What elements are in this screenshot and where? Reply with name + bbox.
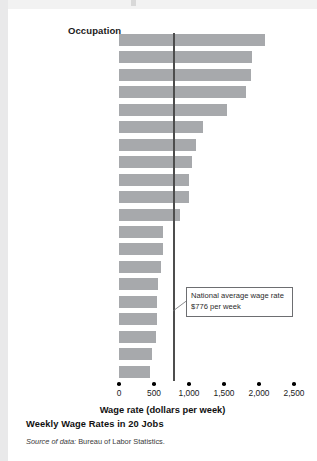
x-axis-tick-label: 2,500	[284, 388, 305, 398]
bar	[119, 69, 251, 81]
bar	[119, 313, 157, 325]
bar	[119, 226, 163, 238]
chart-figure: Occupation Chief executivesPhysicians an…	[8, 10, 317, 400]
bar	[119, 34, 265, 46]
x-axis-tick-marker	[222, 382, 226, 386]
bar	[119, 278, 158, 290]
bar	[119, 348, 152, 360]
figure-source: Source of data: Bureau of Labor Statisti…	[26, 437, 165, 446]
bar	[119, 191, 189, 203]
page-top-band	[0, 0, 317, 9]
plot-area: Chief executivesPhysicians and surgeonsL…	[8, 10, 317, 400]
x-axis-tick-marker	[292, 382, 296, 386]
x-axis-tick-label: 1,000	[179, 388, 200, 398]
page-left-band	[0, 0, 8, 461]
figure-source-prefix: Source of data:	[26, 437, 76, 446]
x-axis-tick-label: 500	[147, 388, 161, 398]
figure-source-body: Bureau of Labor Statistics.	[78, 437, 165, 446]
bar	[119, 261, 161, 273]
x-axis-tick-marker	[117, 382, 121, 386]
bar	[119, 331, 156, 343]
x-axis-tick-label: 2,000	[249, 388, 270, 398]
figure-caption-title: Weekly Wage Rates in 20 Jobs	[26, 419, 164, 429]
bar	[119, 139, 196, 151]
bar	[119, 156, 192, 168]
x-axis-tick-marker	[257, 382, 261, 386]
x-axis-tick-marker	[187, 382, 191, 386]
x-axis-tick-marker	[152, 382, 156, 386]
x-axis-tick-label: 1,500	[214, 388, 235, 398]
average-wage-reference-line	[173, 33, 174, 381]
bar	[119, 296, 157, 308]
bar	[119, 174, 189, 186]
bar	[119, 243, 163, 255]
x-axis-label: Wage rate (dollars per week)	[8, 405, 317, 415]
bar	[119, 86, 246, 98]
bar	[119, 121, 203, 133]
page-top-mark	[131, 0, 136, 6]
x-axis-tick-label: 0	[117, 388, 122, 398]
x-axis: 05001,0001,5002,0002,500	[8, 373, 317, 403]
bar	[119, 51, 252, 63]
bar	[119, 209, 180, 221]
average-wage-callout: National average wage rate $776 per week	[186, 287, 293, 317]
page-background: Occupation Chief executivesPhysicians an…	[0, 0, 317, 461]
